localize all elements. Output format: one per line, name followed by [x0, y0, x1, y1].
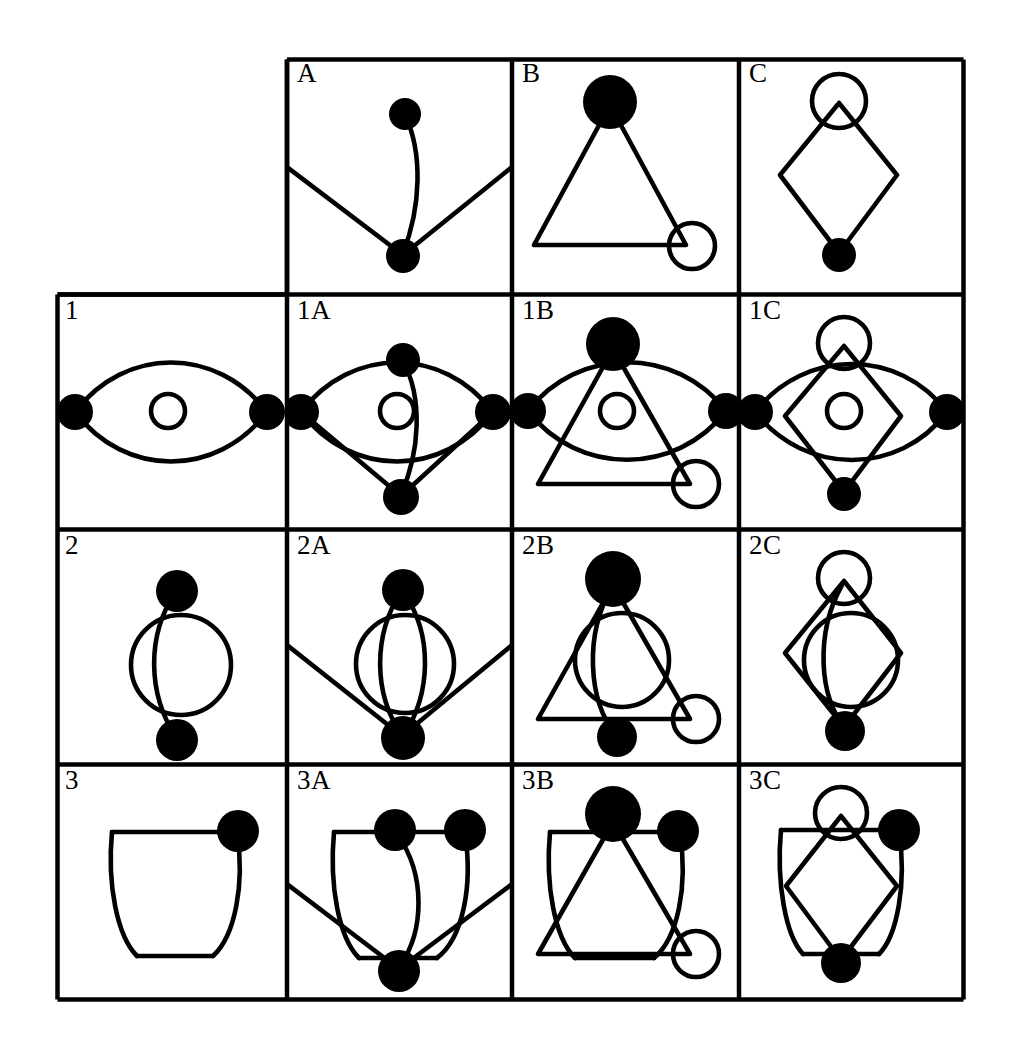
cell-C[interactable]: C — [739, 57, 963, 294]
matrix-corner-cell — [55, 57, 287, 294]
figure-2C — [739, 529, 963, 764]
cell-2A[interactable]: 2A — [287, 529, 512, 764]
cell-1B[interactable]: 1B — [512, 294, 739, 529]
cell-A[interactable]: A — [287, 57, 512, 294]
figure-1 — [55, 294, 287, 529]
figure-3B — [512, 764, 739, 999]
cell-3A[interactable]: 3A — [287, 764, 512, 999]
figure-A — [287, 57, 512, 294]
figure-C — [739, 57, 963, 294]
cell-1C[interactable]: 1C — [739, 294, 963, 529]
figure-1C — [739, 294, 963, 529]
figure-1B — [512, 294, 739, 529]
figure-1A — [287, 294, 512, 529]
cell-1[interactable]: 1 — [55, 294, 287, 529]
cell-3C[interactable]: 3C — [739, 764, 963, 999]
cell-2[interactable]: 2 — [55, 529, 287, 764]
cell-3[interactable]: 3 — [55, 764, 287, 999]
page-root: A B — [0, 0, 1021, 1050]
cell-B[interactable]: B — [512, 57, 739, 294]
figure-2 — [55, 529, 287, 764]
figure-matrix: A B — [55, 57, 966, 1002]
figure-3C — [739, 764, 963, 999]
figure-2A — [287, 529, 512, 764]
cell-2C[interactable]: 2C — [739, 529, 963, 764]
figure-3A — [287, 764, 512, 999]
figure-B — [512, 57, 739, 294]
figure-3 — [55, 764, 287, 999]
cell-1A[interactable]: 1A — [287, 294, 512, 529]
figure-2B — [512, 529, 739, 764]
cell-2B[interactable]: 2B — [512, 529, 739, 764]
cell-3B[interactable]: 3B — [512, 764, 739, 999]
